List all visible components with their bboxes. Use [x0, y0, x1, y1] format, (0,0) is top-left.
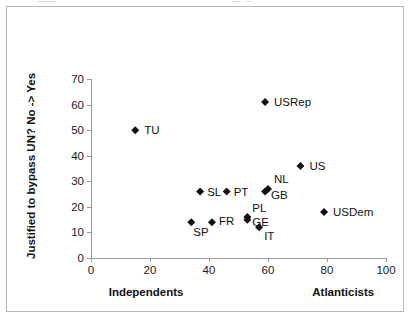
data-point-label: US: [309, 160, 325, 172]
y-tick-label: 20: [44, 201, 84, 213]
y-tick-label: 50: [44, 124, 84, 136]
y-tick-mark: [87, 79, 91, 80]
x-axis-line: [91, 258, 387, 259]
scatter-plot-area: Justified to bypass UN? No -> Yes 010203…: [91, 79, 386, 258]
x-tick-mark: [386, 258, 387, 262]
y-axis-title: Justified to bypass UN? No -> Yes: [25, 0, 39, 79]
data-point-label: SP: [193, 226, 208, 238]
x-tick-label: 40: [189, 264, 229, 276]
data-point-label: NL: [274, 173, 289, 185]
diamond-marker-icon: [261, 98, 269, 106]
x-tick-mark: [268, 258, 269, 262]
y-axis-title-text: Justified to bypass UN? No -> Yes: [25, 79, 37, 259]
data-point-label: PT: [234, 186, 249, 198]
y-tick-label: 0: [44, 252, 84, 264]
x-tick-label: 100: [366, 264, 406, 276]
data-point-label: USRep: [274, 96, 311, 108]
data-point-label: GB: [271, 189, 288, 201]
x-tick-label: 20: [130, 264, 170, 276]
x-tick-mark: [150, 258, 151, 262]
x-tick-mark: [209, 258, 210, 262]
x-axis-anchor-independents: Independents: [109, 286, 184, 298]
x-axis-anchor-atlanticists: Atlanticists: [312, 286, 374, 298]
x-tick-mark: [91, 258, 92, 262]
y-tick-label: 40: [44, 150, 84, 162]
diamond-marker-icon: [296, 162, 304, 170]
data-point-label: USDem: [333, 206, 373, 218]
data-point-label: SL: [207, 186, 221, 198]
x-tick-label: 60: [248, 264, 288, 276]
diamond-marker-icon: [208, 218, 216, 226]
figure-frame: Justified to bypass UN? No -> Yes 010203…: [6, 6, 404, 312]
diamond-marker-icon: [223, 188, 231, 196]
diamond-marker-icon: [196, 188, 204, 196]
data-point-label: IT: [264, 230, 274, 242]
data-point-label: PL: [252, 202, 266, 214]
data-point-label: TU: [144, 124, 159, 136]
data-point-label: FR: [219, 215, 234, 227]
scan-artifact: [0, 0, 411, 4]
y-axis-line: [91, 79, 92, 259]
x-tick-label: 80: [307, 264, 347, 276]
y-tick-label: 30: [44, 175, 84, 187]
y-tick-mark: [87, 181, 91, 182]
y-tick-mark: [87, 207, 91, 208]
y-tick-mark: [87, 156, 91, 157]
diamond-marker-icon: [320, 208, 328, 216]
y-tick-label: 60: [44, 99, 84, 111]
y-tick-mark: [87, 232, 91, 233]
y-tick-label: 10: [44, 226, 84, 238]
y-tick-mark: [87, 130, 91, 131]
x-tick-label: 0: [71, 264, 111, 276]
y-tick-mark: [87, 105, 91, 106]
x-tick-mark: [327, 258, 328, 262]
diamond-marker-icon: [131, 126, 139, 134]
diamond-marker-icon: [187, 218, 195, 226]
y-tick-label: 70: [44, 73, 84, 85]
